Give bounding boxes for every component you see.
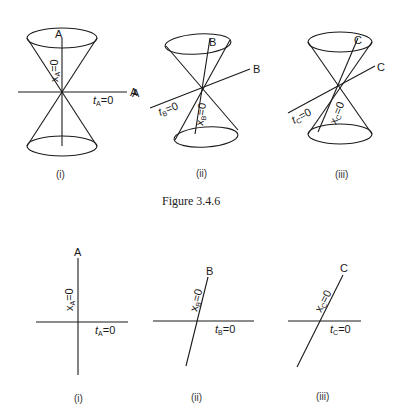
axes-iii: C xC=0 tC=0 (iii) bbox=[288, 262, 361, 402]
svg-text:A: A bbox=[74, 246, 82, 258]
t-equals-zero-label: tA=0 bbox=[93, 94, 113, 107]
axes-ii: B xB=0 tB=0 (ii) bbox=[153, 265, 254, 403]
light-cone-ii: B B A xB=0 tB=0 (ii) bbox=[132, 32, 260, 179]
svg-text:C: C bbox=[354, 34, 362, 46]
x-equals-zero-label: xA=0 bbox=[48, 59, 61, 82]
axes-i: A xA=0 tA=0 (i) bbox=[36, 246, 128, 404]
t-equals-zero-label: tA=0 bbox=[95, 324, 115, 337]
x-equals-zero-label: xA=0 bbox=[63, 288, 76, 311]
svg-text:tB=0: tB=0 bbox=[156, 99, 180, 118]
svg-text:xC=0: xC=0 bbox=[312, 288, 334, 315]
svg-text:(ii): (ii) bbox=[196, 168, 207, 179]
light-cone-i: A A xA=0 tA=0 (i) bbox=[18, 28, 138, 180]
svg-text:(i): (i) bbox=[74, 393, 83, 404]
svg-text:(iii): (iii) bbox=[335, 169, 348, 180]
x-equals-zero-label: xB=0 bbox=[193, 102, 209, 126]
light-cone-iii: C C xC=0 tC=0 (iii) bbox=[288, 32, 385, 180]
svg-text:xB=0: xB=0 bbox=[193, 102, 209, 126]
t-equals-zero-label: tB=0 bbox=[156, 99, 180, 118]
x-equals-zero-label: xC=0 bbox=[312, 288, 334, 315]
svg-text:xA=0: xA=0 bbox=[63, 288, 76, 311]
t-equals-zero-label: tB=0 bbox=[215, 323, 235, 336]
t-equals-zero-label: tC=0 bbox=[330, 323, 351, 336]
t-equals-zero-label: tC=0 bbox=[289, 105, 313, 126]
svg-text:(iii): (iii) bbox=[316, 391, 329, 402]
svg-text:C: C bbox=[340, 262, 348, 274]
svg-text:B: B bbox=[253, 63, 260, 75]
svg-text:xA=0: xA=0 bbox=[48, 59, 61, 82]
spacetime-diagram-figure: A A xA=0 tA=0 (i) B B A xB=0 tB=0 (ii) C bbox=[0, 0, 396, 410]
svg-text:C: C bbox=[377, 61, 385, 73]
frame-a-label: A bbox=[132, 87, 140, 99]
worldline-label: A bbox=[55, 28, 63, 40]
figure-caption: Figure 3.4.6 bbox=[162, 194, 220, 208]
panel-label: (i) bbox=[56, 169, 65, 180]
svg-text:(ii): (ii) bbox=[191, 392, 202, 403]
svg-text:B: B bbox=[206, 265, 213, 277]
svg-text:tC=0: tC=0 bbox=[289, 105, 313, 126]
svg-text:B: B bbox=[209, 36, 216, 48]
simultaneity-line-c bbox=[288, 66, 375, 113]
